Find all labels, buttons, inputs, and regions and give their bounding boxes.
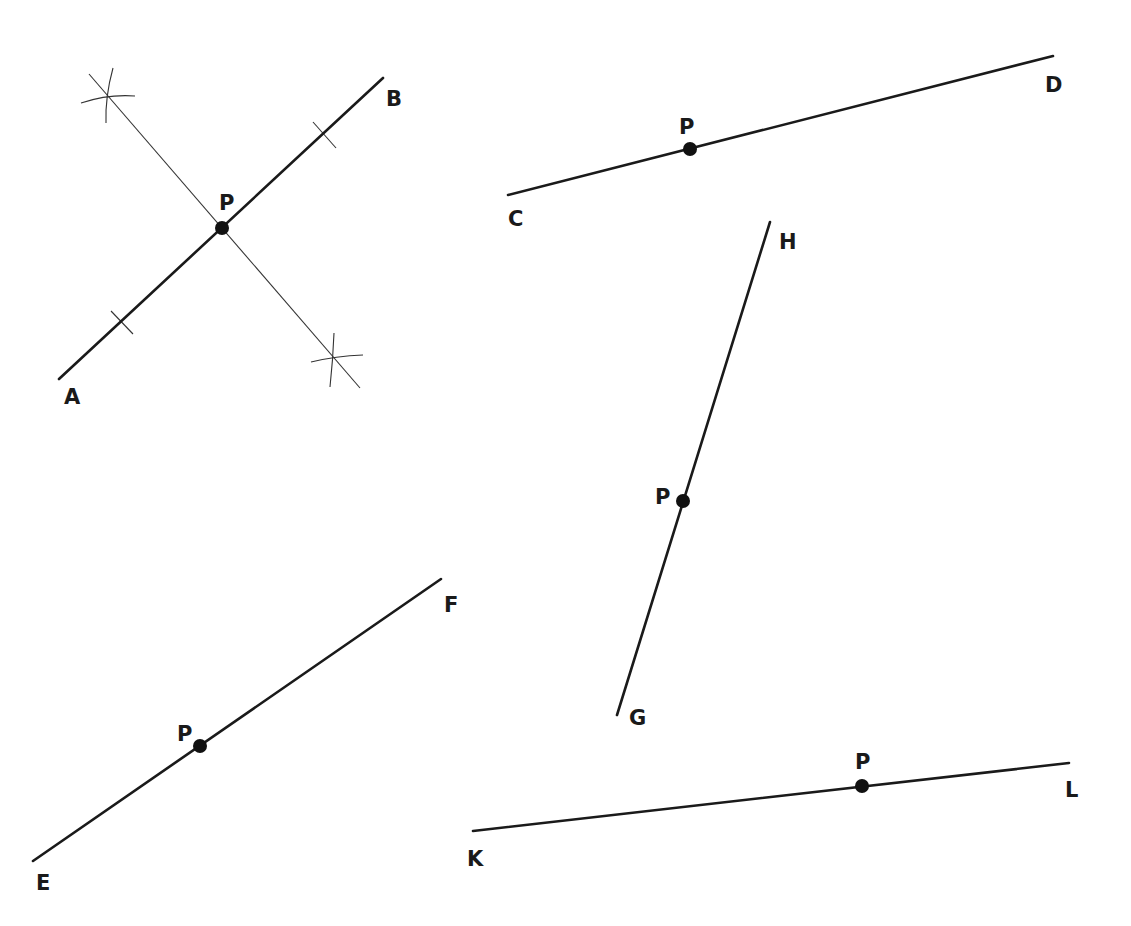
compass-arc bbox=[330, 333, 334, 387]
line-segment-gh bbox=[617, 222, 770, 715]
point-p-label: P bbox=[219, 191, 234, 215]
endpoint-label-f: F bbox=[444, 593, 458, 617]
point-p-dot bbox=[855, 779, 869, 793]
endpoint-label-d: D bbox=[1045, 73, 1062, 97]
geometry-diagram: PABPCDPGHPEFPKL bbox=[0, 0, 1131, 926]
point-p-label: P bbox=[655, 485, 670, 509]
line-segment-kl bbox=[473, 763, 1069, 831]
figure-ef: PEF bbox=[33, 579, 458, 895]
endpoint-label-l: L bbox=[1065, 778, 1078, 802]
point-p-label: P bbox=[177, 722, 192, 746]
endpoint-label-k: K bbox=[467, 847, 484, 871]
compass-arc bbox=[106, 68, 113, 123]
figure-ab: PAB bbox=[59, 68, 402, 409]
endpoint-label-c: C bbox=[508, 207, 523, 231]
endpoint-label-g: G bbox=[629, 706, 646, 730]
compass-arc bbox=[81, 96, 135, 103]
point-p-dot bbox=[215, 221, 229, 235]
endpoint-label-b: B bbox=[386, 87, 402, 111]
endpoint-label-h: H bbox=[779, 230, 797, 254]
figure-kl: PKL bbox=[467, 750, 1078, 871]
endpoint-label-a: A bbox=[64, 385, 81, 409]
point-p-dot bbox=[193, 739, 207, 753]
point-p-label: P bbox=[855, 750, 870, 774]
figure-gh: PGH bbox=[617, 222, 797, 730]
line-segment-ef bbox=[33, 579, 441, 861]
point-p-dot bbox=[683, 142, 697, 156]
figure-cd: PCD bbox=[508, 56, 1062, 231]
point-p-dot bbox=[676, 494, 690, 508]
endpoint-label-e: E bbox=[36, 871, 50, 895]
line-segment-cd bbox=[508, 56, 1053, 195]
diagram-canvas: PABPCDPGHPEFPKL bbox=[0, 0, 1131, 926]
point-p-label: P bbox=[679, 115, 694, 139]
